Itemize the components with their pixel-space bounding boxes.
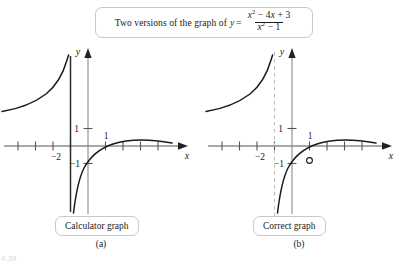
- numerator-rest: − 4: [255, 10, 270, 20]
- correct-graph-svg: −2 1 1 −1 x y: [204, 42, 408, 224]
- hole-open-circle: [307, 158, 313, 164]
- equation-denominator: x2 − 1: [255, 22, 284, 33]
- figure-title-text: Two versions of the graph of: [115, 18, 230, 28]
- y-tick-label-1: 1: [278, 124, 283, 134]
- figure-number: 4.39: [1, 254, 17, 263]
- x-tick-label-1: 1: [104, 131, 109, 141]
- y-axis-arrow-icon: [288, 48, 295, 58]
- y-tick-label-neg1: −1: [70, 159, 80, 169]
- figure-title-box: Two versions of the graph of y = x2 − 4x…: [95, 7, 313, 38]
- y-axis-label: y: [279, 46, 285, 57]
- x-tick-label-neg2: −2: [255, 152, 265, 162]
- caption-correct-graph: Correct graph: [253, 216, 326, 236]
- equation-fraction: x2 − 4x + 3 x2 − 1: [245, 11, 294, 33]
- panel-correct-graph: −2 1 1 −1 x y: [204, 42, 408, 224]
- curve-left-branch: [2, 55, 69, 112]
- x-axis-group-a: [4, 142, 188, 151]
- x-axis-group-b: [208, 142, 392, 151]
- y-axis-arrow-icon: [84, 48, 91, 58]
- caption-calculator-graph: Calculator graph: [55, 216, 139, 236]
- sublabel-a: (a): [81, 239, 121, 249]
- equation-numerator: x2 − 4x + 3: [245, 11, 294, 21]
- x-axis-label: x: [184, 150, 190, 161]
- sublabel-b: (b): [279, 239, 319, 249]
- panel-calculator-graph: −2 1 1 −1 x y: [0, 42, 204, 224]
- x-axis-arrow-icon: [178, 142, 188, 150]
- numerator-tail: + 3: [275, 10, 290, 20]
- y-axis-group-b: [288, 48, 297, 214]
- x-tick-label-1: 1: [308, 131, 313, 141]
- x-tick-label-neg2: −2: [51, 152, 61, 162]
- x-axis-label: x: [388, 150, 394, 161]
- y-axis-group-a: [84, 48, 93, 214]
- y-tick-label-neg1: −1: [274, 159, 284, 169]
- calculator-graph-svg: −2 1 1 −1 x y: [0, 42, 204, 224]
- x-axis-arrow-icon: [382, 142, 392, 150]
- equation-equals-sign: =: [236, 18, 244, 28]
- y-axis-label: y: [75, 46, 81, 57]
- curve-left-branch: [206, 55, 273, 112]
- y-tick-label-1: 1: [74, 124, 79, 134]
- figure-title: Two versions of the graph of y = x2 − 4x…: [115, 12, 294, 34]
- denominator-tail: − 1: [265, 22, 280, 32]
